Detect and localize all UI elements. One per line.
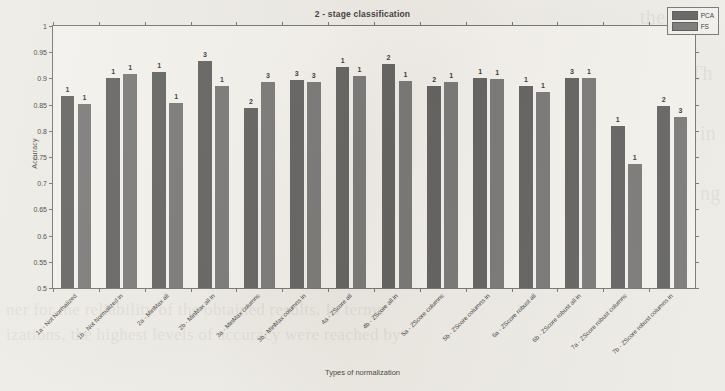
- bar-pca: [427, 86, 441, 288]
- x-tick-label: 2a - MinMax all: [135, 292, 170, 327]
- y-tick-right: [695, 78, 699, 79]
- y-tick: [49, 26, 53, 27]
- y-tick-right: [695, 262, 699, 263]
- x-tick-label: 1a - Not Normalized: [34, 292, 78, 336]
- x-axis-label: Types of normalization: [0, 368, 725, 377]
- x-tick: [282, 22, 283, 26]
- x-tick: [99, 288, 100, 292]
- x-tick-label: 6a - ZScore robust all: [490, 292, 537, 339]
- bar-fs: [490, 79, 504, 288]
- bar-pca: [657, 106, 671, 288]
- x-tick: [236, 288, 237, 292]
- legend-swatch-pca: [672, 11, 698, 20]
- chart-legend: PCA FS: [667, 7, 719, 35]
- y-tick-label: 0.9: [37, 75, 47, 82]
- bar-value-label: 1: [358, 66, 362, 73]
- bar-value-label: 3: [203, 51, 207, 58]
- x-tick: [99, 22, 100, 26]
- bar-fs: [536, 92, 550, 288]
- x-tick: [328, 22, 329, 26]
- x-tick-label: 2b - MinMax all in: [176, 292, 215, 331]
- bar-chart-figure: 2 - stage classification Accuracy Types …: [0, 0, 725, 391]
- bar-pca: [152, 72, 166, 288]
- y-tick: [49, 131, 53, 132]
- bar-fs: [353, 76, 367, 288]
- x-tick: [191, 288, 192, 292]
- x-tick: [649, 288, 650, 292]
- bar-value-label: 1: [524, 76, 528, 83]
- x-tick-label: 3b - MinMax columns in: [256, 292, 307, 343]
- x-tick: [328, 288, 329, 292]
- bar-fs: [399, 81, 413, 288]
- y-tick: [49, 52, 53, 53]
- y-tick-label: 0.55: [33, 258, 47, 265]
- chart-title: 2 - stage classification: [0, 9, 725, 19]
- x-tick: [191, 22, 192, 26]
- bar-value-label: 1: [633, 154, 637, 161]
- legend-swatch-fs: [672, 22, 698, 31]
- y-tick-label: 1: [43, 23, 47, 30]
- x-tick: [466, 288, 467, 292]
- bar-value-label: 1: [65, 86, 69, 93]
- legend-item-fs: FS: [672, 22, 714, 31]
- bar-pca: [473, 78, 487, 288]
- x-tick-label: 6b - ZScore robust all in: [531, 292, 582, 343]
- y-tick: [49, 262, 53, 263]
- bar-value-label: 1: [403, 71, 407, 78]
- bar-value-label: 1: [111, 68, 115, 75]
- bar-value-label: 1: [478, 68, 482, 75]
- x-tick: [649, 22, 650, 26]
- y-tick-label: 0.6: [37, 232, 47, 239]
- x-tick-label: 4a - ZScore all: [320, 292, 353, 325]
- x-tick: [420, 22, 421, 26]
- bar-value-label: 3: [266, 72, 270, 79]
- bar-pca: [336, 67, 350, 288]
- y-tick: [49, 78, 53, 79]
- x-tick: [236, 22, 237, 26]
- plot-area: 0.50.550.60.650.70.750.80.850.90.951 111…: [52, 25, 696, 289]
- bar-fs: [169, 103, 183, 288]
- y-tick-label: 0.75: [33, 154, 47, 161]
- y-tick: [49, 236, 53, 237]
- x-tick-label: 4b - ZScore all in: [361, 292, 399, 330]
- bar-value-label: 3: [295, 70, 299, 77]
- x-tick: [512, 288, 513, 292]
- x-tick: [603, 22, 604, 26]
- x-tick: [420, 288, 421, 292]
- bar-value-label: 3: [679, 107, 683, 114]
- x-tick: [53, 288, 54, 292]
- x-tick: [374, 288, 375, 292]
- bar-pca: [611, 126, 625, 288]
- y-tick-right: [695, 105, 699, 106]
- y-tick-label: 0.8: [37, 127, 47, 134]
- y-tick-right: [695, 52, 699, 53]
- y-tick-right: [695, 183, 699, 184]
- bar-fs: [261, 82, 275, 288]
- x-tick: [557, 22, 558, 26]
- y-tick-label: 0.95: [33, 49, 47, 56]
- bar-pca: [565, 78, 579, 288]
- y-tick: [49, 105, 53, 106]
- bar-value-label: 3: [312, 72, 316, 79]
- x-tick: [53, 22, 54, 26]
- y-tick: [49, 183, 53, 184]
- y-tick-right: [695, 288, 699, 289]
- y-tick-label: 0.7: [37, 180, 47, 187]
- x-tick-label: 3a - MinMax columns: [215, 292, 262, 339]
- bar-fs: [582, 78, 596, 288]
- x-tick-label: 1b - Not Normalized in: [75, 292, 123, 340]
- bar-pca: [61, 96, 75, 288]
- bar-fs: [444, 82, 458, 288]
- x-tick: [145, 288, 146, 292]
- y-tick-label: 0.5: [37, 285, 47, 292]
- bar-pca: [382, 64, 396, 288]
- y-tick-label: 0.65: [33, 206, 47, 213]
- bar-value-label: 1: [82, 94, 86, 101]
- bar-value-label: 1: [128, 64, 132, 71]
- x-tick: [282, 288, 283, 292]
- bar-value-label: 1: [220, 76, 224, 83]
- bar-pca: [519, 86, 533, 288]
- bar-fs: [215, 86, 229, 288]
- bar-value-label: 1: [495, 69, 499, 76]
- bar-fs: [628, 164, 642, 288]
